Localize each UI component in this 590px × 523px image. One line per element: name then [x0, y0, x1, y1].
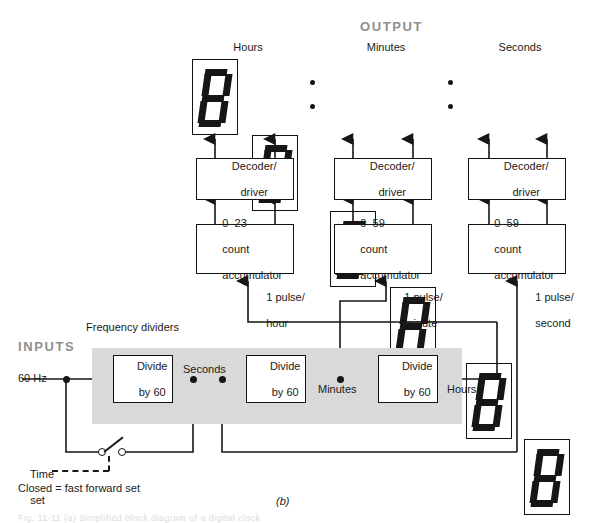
decoder-driver-seconds: Decoder/ driver — [468, 158, 566, 200]
junction-dot-minutes — [337, 376, 344, 383]
pulse-minute-line2: minute — [404, 317, 437, 329]
count-accumulator-hours: 0–23 count accumulator — [196, 224, 294, 274]
signal-label-hours: Hours — [447, 383, 476, 396]
count-accumulator-seconds: 0–59 count accumulator — [468, 224, 566, 274]
decoder-line1: Decoder/ — [232, 160, 277, 172]
junction-dot-seconds-b — [219, 376, 226, 383]
divide-by-60-hours: Divide by 60 — [378, 355, 438, 403]
figure-sub-label: (b) — [276, 495, 289, 507]
divider-line2: by 60 — [404, 386, 431, 398]
pulse-second-line1: 1 pulse/ — [535, 291, 574, 303]
switch-terminal-right[interactable] — [118, 448, 126, 456]
count-accumulator-minutes: 0–59 count accumulator — [334, 224, 432, 274]
signal-label-seconds: Seconds — [183, 363, 226, 376]
pulse-label-hour: 1 pulse/ hour — [254, 278, 305, 343]
decoder-line1: Decoder/ — [370, 160, 415, 172]
decoder-line2: driver — [240, 186, 268, 198]
divider-line2: by 60 — [272, 386, 299, 398]
decoder-line2: driver — [378, 186, 406, 198]
divide-by-60-minutes: Divide by 60 — [246, 355, 306, 403]
decoder-driver-minutes: Decoder/ driver — [334, 158, 432, 200]
decoder-line1: Decoder/ — [504, 160, 549, 172]
accumulator-line2: count — [222, 243, 249, 255]
figure-caption-cut: Fig. 11-11 (a) Simplified block diagram … — [18, 513, 260, 523]
time-set-line2: set — [30, 494, 45, 506]
pulse-hour-line1: 1 pulse/ — [266, 291, 305, 303]
accumulator-range: 0–23 — [222, 217, 246, 229]
pulse-minute-line1: 1 pulse/ — [404, 291, 443, 303]
pulse-hour-line2: hour — [266, 317, 288, 329]
decoder-line2: driver — [512, 186, 540, 198]
time-set-dashed-riser — [108, 456, 110, 471]
signal-label-minutes: Minutes — [318, 383, 357, 396]
input-frequency-label: 60 Hz — [18, 372, 47, 385]
accumulator-line2: count — [360, 243, 387, 255]
junction-dot-seconds-a — [190, 376, 197, 383]
time-set-line1: Time — [30, 468, 54, 480]
junction-dot-input — [63, 376, 70, 383]
decoder-driver-hours: Decoder/ driver — [196, 158, 294, 200]
divider-line2: by 60 — [139, 386, 166, 398]
time-set-note: Closed = fast forward set — [18, 482, 140, 495]
accumulator-range: 0–59 — [360, 217, 384, 229]
divider-line1: Divide — [402, 360, 433, 372]
accumulator-line2: count — [494, 243, 521, 255]
inputs-heading: INPUTS — [18, 339, 75, 354]
divide-by-60-seconds: Divide by 60 — [113, 355, 173, 403]
accumulator-range: 0–59 — [494, 217, 518, 229]
pulse-label-second: 1 pulse/ second — [523, 278, 574, 343]
pulse-label-minute: 1 pulse/ minute — [392, 278, 443, 343]
divider-line1: Divide — [270, 360, 301, 372]
divider-line1: Divide — [137, 360, 168, 372]
pulse-second-line2: second — [535, 317, 570, 329]
time-set-dashed-link — [52, 470, 109, 472]
frequency-dividers-label: Frequency dividers — [86, 321, 179, 334]
